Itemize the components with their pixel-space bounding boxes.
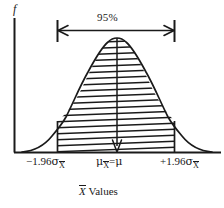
tick-lower-value: 1.96 — [32, 155, 51, 167]
tick-upper-symbol: σ — [185, 155, 193, 168]
x-axis-title: X Values — [79, 186, 118, 197]
tick-label-lower-bound: −1.96σX — [26, 156, 65, 170]
shaded-area-hatching — [50, 39, 182, 158]
tick-upper-value: 1.96 — [166, 155, 185, 167]
tick-center-right: μ — [115, 155, 122, 168]
interval-percent-label: 95% — [97, 12, 118, 23]
x-axis-title-word: Values — [88, 185, 117, 197]
figure-canvas — [0, 0, 224, 208]
tick-upper-subscript: X — [193, 162, 199, 170]
x-axis-title-mean-symbol: X — [79, 186, 86, 197]
tick-lower-symbol: σ — [51, 155, 59, 168]
overbar — [193, 161, 199, 162]
x-axis-title-mean-text: X — [79, 185, 86, 197]
tick-label-center-mean: μX=μ — [96, 156, 122, 170]
y-axis-label: f — [13, 3, 16, 15]
tick-center-subscript: X — [103, 162, 109, 170]
overbar — [103, 161, 109, 162]
tick-center-symbol: μ — [96, 155, 103, 168]
tick-lower-subscript: X — [59, 162, 65, 170]
overbar — [79, 185, 86, 186]
normal-distribution-figure: f 95% −1.96σX μX=μ +1.96σX X Values — [0, 0, 224, 208]
overbar — [59, 161, 65, 162]
tick-label-upper-bound: +1.96σX — [160, 156, 199, 170]
